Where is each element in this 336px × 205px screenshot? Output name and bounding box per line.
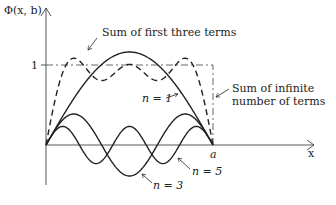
fourier-diagram: Φ(x, b) 1 a x Sum of first three terms S…	[0, 0, 336, 205]
annotation-sum-three: Sum of first three terms	[102, 26, 237, 39]
x-axis-label: x	[308, 147, 315, 160]
annotation-sum-infinite-2: number of terms	[232, 95, 326, 108]
annotation-n5: n = 5	[192, 165, 222, 178]
y-tick-one: 1	[31, 59, 38, 72]
annotation-n1: n = 1	[142, 92, 172, 105]
y-axis-label: Φ(x, b)	[4, 4, 42, 17]
sum-infinite-curve	[46, 65, 213, 145]
annotation-n3: n = 3	[153, 179, 183, 192]
annotation-sum-infinite-1: Sum of infinite	[232, 82, 314, 95]
x-tick-a: a	[210, 148, 217, 161]
